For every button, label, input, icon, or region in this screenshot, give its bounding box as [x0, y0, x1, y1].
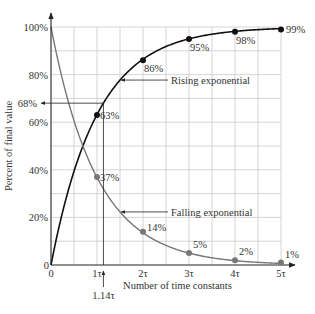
x-tick-label: 3τ	[184, 268, 193, 279]
falling-point-label: 5%	[193, 239, 207, 250]
y-tick-label: 20%	[29, 212, 49, 223]
x-axis-title: Number of time constants	[123, 280, 232, 291]
y-axis-title: Percent of final value	[3, 101, 14, 191]
y-tick-label: 0	[44, 260, 49, 271]
reference-y-label: 68%	[18, 98, 38, 109]
y-tick-label: 60%	[29, 117, 49, 128]
exponential-chart: 01τ2τ3τ4τ5τ020%40%60%80%100%Number of ti…	[0, 0, 315, 314]
rising-point-label: 99%	[286, 24, 306, 35]
x-tick-label: 5τ	[276, 268, 285, 279]
falling-point-label: 14%	[147, 222, 167, 233]
rising-point-label: 86%	[144, 63, 164, 74]
rising-point-label: 63%	[100, 110, 120, 121]
falling-point-label: 2%	[239, 246, 253, 257]
x-tick-label: 4τ	[230, 268, 239, 279]
reference-x-label: 1.14τ	[92, 290, 115, 301]
falling-callout-label: Falling exponential	[171, 207, 252, 218]
x-tick-label: 0	[48, 268, 53, 279]
labels: 01τ2τ3τ4τ5τ020%40%60%80%100%Number of ti…	[3, 22, 306, 301]
y-tick-label: 80%	[29, 70, 49, 81]
falling-point	[186, 250, 192, 256]
y-tick-label: 40%	[29, 165, 49, 176]
rising-point	[278, 26, 284, 32]
rising-point-label: 98%	[236, 35, 256, 46]
y-tick-label: 100%	[24, 22, 49, 33]
rising-point-label: 95%	[190, 42, 210, 53]
x-tick-label: 1τ	[92, 268, 101, 279]
falling-point-label: 37%	[100, 172, 120, 183]
x-tick-label: 2τ	[138, 268, 147, 279]
falling-point-label: 1%	[285, 249, 299, 260]
falling-point	[278, 260, 284, 266]
rising-callout-label: Rising exponential	[171, 75, 250, 86]
falling-point	[140, 229, 146, 235]
falling-point	[232, 257, 238, 263]
